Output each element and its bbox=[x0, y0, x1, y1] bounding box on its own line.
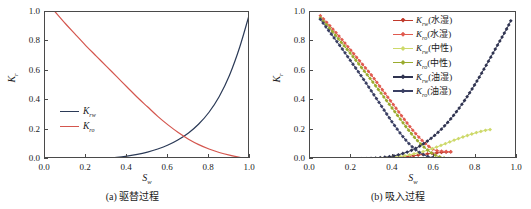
marker-b-2-36 bbox=[484, 128, 488, 132]
legend-label-kro-a: Kro bbox=[83, 121, 94, 133]
marker-b-4-15 bbox=[387, 155, 391, 157]
legend-item-b-2: Krw(中性) bbox=[393, 43, 452, 53]
y-tick-label-b-4: 0.8 bbox=[283, 36, 305, 45]
legend-a: Krw Kro bbox=[60, 107, 96, 131]
y-tick-label-a-0: 0.0 bbox=[18, 154, 40, 163]
x-tick-a-4 bbox=[208, 154, 209, 158]
x-tick-a-3 bbox=[167, 154, 168, 158]
panel-b: 0.00.20.40.60.81.00.00.20.40.60.81.0 Kr … bbox=[265, 0, 531, 209]
x-tick-b-2 bbox=[392, 154, 393, 158]
y-tick-b-0 bbox=[309, 158, 313, 159]
y-axis-title-a: Kr bbox=[6, 73, 19, 82]
legend-b: Krw(水湿)Kro(水湿)Krw(中性)Kro(中性)Krw(油湿)Kro(油… bbox=[393, 15, 452, 96]
x-tick-label-a-3: 0.6 bbox=[161, 163, 172, 172]
x-tick-label-b-2: 0.4 bbox=[386, 163, 397, 172]
y-tick-a-1 bbox=[44, 129, 48, 130]
y-tick-b-1 bbox=[309, 129, 313, 130]
y-tick-label-b-5: 1.0 bbox=[283, 7, 305, 16]
y-tick-label-a-4: 0.8 bbox=[18, 36, 40, 45]
x-tick-label-b-4: 0.8 bbox=[469, 163, 480, 172]
marker-b-4-54 bbox=[505, 27, 509, 31]
y-tick-label-a-3: 0.6 bbox=[18, 65, 40, 74]
marker-b-2-31 bbox=[461, 135, 465, 139]
x-tick-label-b-1: 0.2 bbox=[345, 163, 356, 172]
x-tick-b-1 bbox=[350, 154, 351, 158]
legend-marker-b-1 bbox=[393, 31, 413, 38]
legend-swatch-kro-a bbox=[60, 126, 79, 127]
marker-b-2-35 bbox=[479, 130, 483, 134]
marker-b-2-32 bbox=[465, 134, 469, 138]
legend-label-b-1: Kro(水湿) bbox=[416, 27, 451, 41]
x-tick-label-a-5: 1.0 bbox=[243, 163, 254, 172]
legend-item-kro-a: Kro bbox=[60, 122, 96, 131]
x-tick-a-1 bbox=[85, 154, 86, 158]
marker-b-4-50 bbox=[496, 43, 500, 47]
legend-marker-b-0 bbox=[393, 17, 413, 24]
marker-b-4-49 bbox=[493, 47, 497, 51]
y-tick-a-2 bbox=[44, 99, 48, 100]
marker-b-4-11 bbox=[369, 156, 373, 157]
marker-b-3-41 bbox=[442, 156, 446, 157]
legend-item-b-0: Krw(水湿) bbox=[393, 15, 452, 25]
y-tick-b-2 bbox=[309, 99, 313, 100]
x-tick-b-5 bbox=[516, 154, 517, 158]
legend-label-b-0: Krw(水湿) bbox=[416, 13, 452, 27]
x-tick-label-a-0: 0.0 bbox=[38, 163, 49, 172]
x-tick-label-b-3: 0.6 bbox=[428, 163, 439, 172]
y-tick-label-b-2: 0.4 bbox=[283, 95, 305, 104]
legend-label-b-4: Krw(油湿) bbox=[416, 70, 452, 84]
y-tick-b-4 bbox=[309, 40, 313, 41]
legend-item-b-5: Kro(油湿) bbox=[393, 86, 452, 96]
marker-b-2-29 bbox=[452, 138, 456, 142]
legend-swatch-krw-a bbox=[60, 111, 79, 112]
y-tick-a-3 bbox=[44, 70, 48, 71]
marker-b-4-14 bbox=[383, 155, 387, 157]
legend-item-b-1: Kro(水湿) bbox=[393, 29, 452, 39]
marker-b-4-12 bbox=[374, 156, 378, 157]
marker-b-1-42 bbox=[449, 150, 453, 154]
x-tick-label-b-0: 0.0 bbox=[303, 163, 314, 172]
y-tick-a-4 bbox=[44, 40, 48, 41]
marker-b-2-30 bbox=[457, 137, 461, 141]
legend-item-b-3: Kro(中性) bbox=[393, 58, 452, 68]
legend-label-b-5: Kro(油湿) bbox=[416, 84, 451, 98]
marker-b-4-55 bbox=[507, 23, 511, 27]
marker-b-2-26 bbox=[439, 144, 443, 148]
plot-area-a bbox=[44, 11, 249, 158]
legend-label-b-2: Krw(中性) bbox=[416, 41, 452, 55]
y-tick-b-3 bbox=[309, 70, 313, 71]
x-tick-label-a-1: 0.2 bbox=[79, 163, 90, 172]
y-tick-a-0 bbox=[44, 158, 48, 159]
x-tick-label-a-2: 0.4 bbox=[120, 163, 131, 172]
x-tick-a-5 bbox=[249, 154, 250, 158]
legend-marker-b-2 bbox=[393, 45, 413, 52]
x-tick-label-b-5: 1.0 bbox=[510, 163, 521, 172]
y-tick-a-5 bbox=[44, 11, 48, 12]
x-axis-title-a: Sw bbox=[142, 172, 151, 185]
legend-marker-b-3 bbox=[393, 59, 413, 66]
y-tick-label-a-2: 0.4 bbox=[18, 95, 40, 104]
marker-b-2-27 bbox=[443, 142, 447, 146]
y-tick-label-a-1: 0.2 bbox=[18, 124, 40, 133]
marker-b-1-39 bbox=[435, 149, 439, 153]
legend-item-b-4: Krw(油湿) bbox=[393, 72, 452, 82]
series-a-0 bbox=[55, 12, 248, 157]
x-tick-a-2 bbox=[126, 154, 127, 158]
x-tick-b-0 bbox=[309, 154, 310, 158]
marker-b-4-19 bbox=[405, 150, 409, 154]
marker-b-4-20 bbox=[410, 148, 414, 152]
legend-label-b-3: Kro(中性) bbox=[416, 56, 451, 70]
y-tick-label-a-5: 1.0 bbox=[18, 7, 40, 16]
y-tick-label-b-3: 0.6 bbox=[283, 65, 305, 74]
y-tick-label-b-0: 0.0 bbox=[283, 154, 305, 163]
x-tick-a-0 bbox=[44, 154, 45, 158]
y-tick-label-b-1: 0.2 bbox=[283, 124, 305, 133]
curves-a bbox=[45, 12, 248, 157]
legend-label-krw-a: Krw bbox=[83, 106, 96, 118]
x-tick-b-4 bbox=[475, 154, 476, 158]
y-axis-title-b: Kr bbox=[271, 73, 284, 82]
series-a-1 bbox=[55, 12, 248, 157]
figure-relative-permeability: 0.00.20.40.60.81.00.00.20.40.60.81.0 Kr … bbox=[0, 0, 531, 209]
marker-b-2-33 bbox=[470, 132, 474, 136]
caption-b: (b) 吸入过程 bbox=[265, 188, 531, 203]
